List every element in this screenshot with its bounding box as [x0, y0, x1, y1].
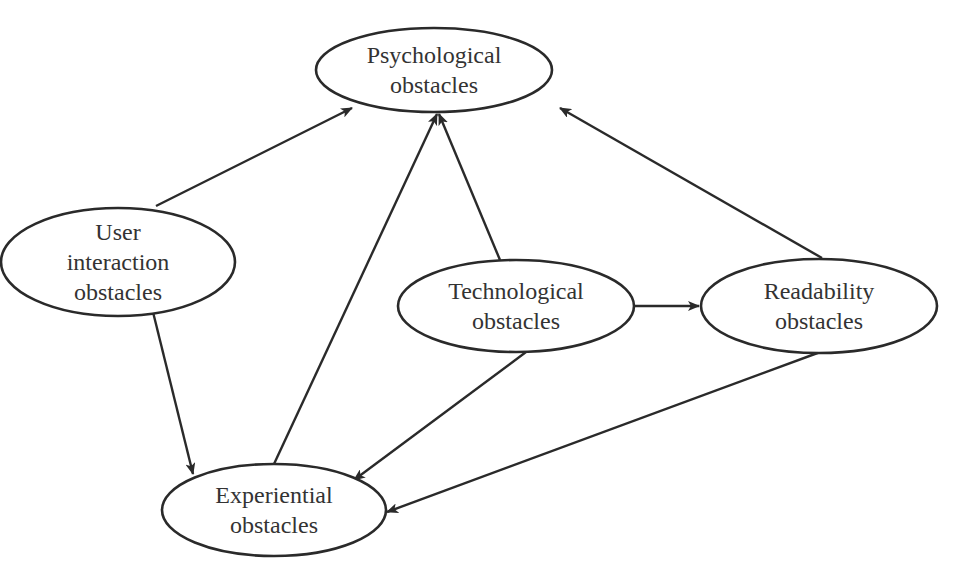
edge-technological-to-experiential: [354, 352, 526, 480]
node-readability: Readabilityobstacles: [701, 259, 937, 353]
node-label-line: Experiential: [215, 482, 333, 508]
node-label-line: User: [95, 219, 140, 245]
node-technological: Technologicalobstacles: [398, 260, 634, 352]
edge-user-interaction-to-experiential: [153, 312, 193, 474]
node-ellipse: [701, 259, 937, 353]
node-label-line: Readability: [764, 278, 875, 304]
node-ellipse: [162, 464, 386, 556]
node-label-line: obstacles: [230, 512, 318, 538]
node-label-line: interaction: [67, 249, 170, 275]
node-label-line: obstacles: [390, 72, 478, 98]
obstacle-diagram: PsychologicalobstaclesUserinteractionobs…: [0, 0, 961, 582]
node-label-line: obstacles: [472, 308, 560, 334]
node-user-interaction: Userinteractionobstacles: [1, 208, 235, 316]
edge-user-interaction-to-psychological: [156, 108, 352, 206]
node-label-line: obstacles: [74, 279, 162, 305]
edge-technological-to-psychological: [439, 114, 500, 260]
node-label-line: obstacles: [775, 308, 863, 334]
node-label-line: Technological: [448, 278, 584, 304]
node-ellipse: [398, 260, 634, 352]
node-experiential: Experientialobstacles: [162, 464, 386, 556]
node-label-line: Psychological: [367, 42, 502, 68]
node-ellipse: [316, 28, 552, 112]
edge-readability-to-psychological: [560, 108, 822, 258]
nodes-layer: PsychologicalobstaclesUserinteractionobs…: [1, 28, 937, 556]
edge-readability-to-experiential: [387, 351, 823, 512]
node-psychological: Psychologicalobstacles: [316, 28, 552, 112]
